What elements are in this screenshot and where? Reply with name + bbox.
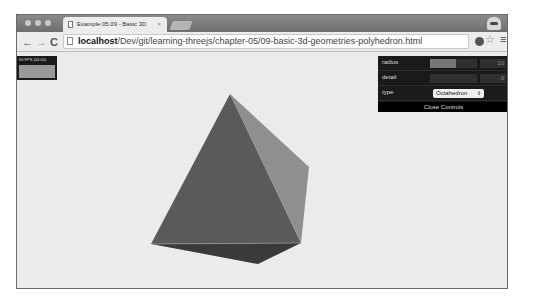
- reload-button[interactable]: C: [50, 34, 58, 50]
- type-select-value: Octahedron: [436, 90, 467, 96]
- menu-icon[interactable]: ≡: [500, 33, 506, 45]
- page-icon: [67, 37, 73, 45]
- back-button[interactable]: ←: [22, 34, 33, 50]
- address-bar[interactable]: localhost/Dev/git/learning-threejs/chapt…: [63, 34, 469, 49]
- close-controls-button[interactable]: Close Controls: [378, 102, 508, 112]
- radius-input[interactable]: 10: [480, 59, 506, 68]
- radius-slider[interactable]: [430, 59, 477, 68]
- select-arrows-icon: ⇕: [477, 89, 481, 98]
- stats-panel[interactable]: 60 FPS (44-60): [17, 56, 57, 80]
- control-row-type: type Octahedron ⇕: [378, 86, 508, 101]
- fps-graph: [19, 65, 55, 78]
- pen-icon: /: [481, 19, 483, 28]
- tab-title: Example 05.09 - Basic 3D: [77, 21, 146, 27]
- incognito-user-icon[interactable]: [487, 17, 501, 30]
- webgl-canvas[interactable]: 60 FPS (44-60) radius 10 detail 0 type O…: [17, 52, 507, 289]
- close-window-button[interactable]: [25, 20, 31, 26]
- browser-toolbar: ← → C localhost/Dev/git/learning-threejs…: [17, 32, 507, 52]
- minimize-window-button[interactable]: [35, 20, 41, 26]
- browser-window: Example 05.09 - Basic 3D × / ← → C local…: [16, 14, 508, 289]
- title-bar: Example 05.09 - Basic 3D × /: [17, 15, 507, 32]
- zoom-window-button[interactable]: [45, 20, 51, 26]
- radius-label: radius: [382, 59, 398, 65]
- detail-slider[interactable]: [430, 74, 477, 83]
- bookmark-star-icon[interactable]: ☆: [485, 33, 495, 46]
- url-host: localhost: [78, 36, 118, 46]
- type-select[interactable]: Octahedron ⇕: [433, 89, 484, 98]
- extension-icon[interactable]: [475, 37, 484, 46]
- control-row-detail: detail 0: [378, 71, 508, 86]
- detail-label: detail: [382, 74, 396, 80]
- page-icon: [68, 21, 73, 28]
- tab-close-icon[interactable]: ×: [157, 17, 161, 32]
- control-row-radius: radius 10: [378, 56, 508, 71]
- fps-label: 60 FPS (44-60): [17, 56, 57, 63]
- tab-active[interactable]: Example 05.09 - Basic 3D ×: [63, 17, 167, 32]
- detail-input[interactable]: 0: [480, 74, 506, 83]
- dat-gui-controls: radius 10 detail 0 type Octahedron ⇕ Clo…: [378, 56, 508, 112]
- new-tab-button[interactable]: [169, 21, 192, 30]
- url-path: /Dev/git/learning-threejs/chapter-05/09-…: [118, 36, 423, 46]
- type-label: type: [382, 89, 393, 95]
- forward-button[interactable]: →: [36, 34, 47, 50]
